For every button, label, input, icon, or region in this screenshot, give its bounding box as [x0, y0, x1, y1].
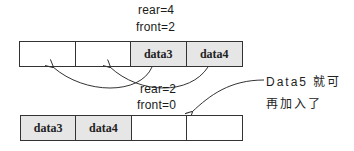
- arrow-data5-icon: [192, 80, 264, 112]
- arrow-data3-icon: [53, 67, 152, 88]
- bottom-rear-label: rear=2: [140, 82, 176, 96]
- bottom-queue: data3 data4: [20, 115, 243, 141]
- annotation-line2: 再加入了: [266, 94, 322, 111]
- bottom-cell-3: [187, 116, 242, 140]
- annotation-line1: Data5 就可: [266, 72, 341, 89]
- bottom-cell-2: [132, 116, 187, 140]
- bottom-cell-0: data3: [21, 116, 76, 140]
- bottom-front-label: front=0: [137, 98, 176, 112]
- bottom-cell-1: data4: [76, 116, 131, 140]
